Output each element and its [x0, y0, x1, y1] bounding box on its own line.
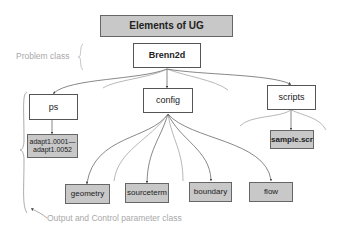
title-node: Elements of UG — [100, 15, 233, 37]
problem-class-label: Problem class — [16, 51, 69, 61]
sample-scr-node: sample.scr — [270, 130, 314, 149]
adapt-line-1: adapt1.0001— — [30, 138, 76, 146]
boundary-node: boundary — [189, 182, 232, 202]
scripts-node: scripts — [267, 85, 316, 110]
geometry-node: geometry — [65, 184, 110, 204]
ps-node: ps — [29, 94, 78, 120]
output-control-label: Output and Control parameter class — [47, 213, 182, 223]
sourceterm-node: sourceterm — [125, 183, 169, 203]
flow-node: flow — [249, 182, 293, 202]
brenn2d-node: Brenn2d — [133, 43, 201, 68]
adapt-node: adapt1.0001— adapt1.0052 — [27, 134, 78, 158]
adapt-line-2: adapt1.0052 — [33, 146, 72, 154]
config-node: config — [143, 88, 193, 113]
